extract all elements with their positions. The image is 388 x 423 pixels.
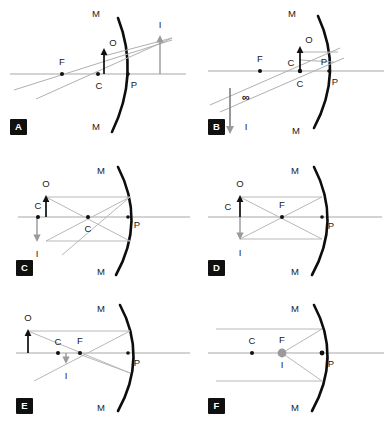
panel-f-diagram: M M C F P I F: [194, 285, 388, 423]
panel-f: M M C F P I F: [194, 285, 388, 423]
image-at-infinity-arrow-head: [226, 126, 234, 134]
label-focal-point: F: [257, 53, 263, 64]
converging-ray-top: [282, 329, 322, 353]
label-mirror-bottom: M: [97, 266, 105, 277]
label-pole: P: [134, 357, 140, 368]
label-pole: P: [134, 219, 140, 230]
label-centre-upper: C: [288, 57, 295, 68]
focal-point-dot: [60, 72, 64, 76]
label-centre: C: [225, 201, 232, 212]
label-image: I: [239, 247, 242, 258]
label-mirror-bottom: M: [291, 266, 299, 277]
mirror-arc: [312, 305, 328, 411]
label-image: I: [245, 121, 248, 132]
label-focal-point: F: [59, 56, 65, 67]
pole-dot: [327, 69, 331, 73]
centre-dot: [250, 351, 254, 355]
label-focal-point: F: [77, 335, 83, 346]
label-image: I: [36, 248, 39, 259]
panel-e: M M C F O P I E: [0, 285, 194, 423]
label-pole: P: [328, 358, 334, 369]
point-image-dot: [278, 349, 287, 358]
incident-ray-1: [14, 40, 172, 90]
label-mirror-bottom: M: [292, 125, 300, 136]
label-mirror-top: M: [291, 303, 299, 314]
ray-diagram-figure: M M F C O P I A M M F: [0, 0, 388, 423]
centre-dot: [298, 69, 302, 73]
pole-dot: [126, 351, 130, 355]
focal-ray: [62, 197, 130, 255]
mirror-arc: [118, 305, 134, 411]
label-mirror-top: M: [97, 303, 105, 314]
label-pole: P: [328, 220, 334, 231]
centre-dot: [56, 351, 60, 355]
panel-a: M M F C O P I A: [0, 0, 194, 145]
panel-a-diagram: M M F C O P I A: [0, 0, 194, 145]
label-object: O: [42, 178, 49, 189]
label-image: I: [159, 19, 162, 30]
centre-dot: [96, 72, 100, 76]
panel-c: M M C C O P I C: [0, 145, 194, 285]
pole-dot: [320, 351, 325, 356]
label-infinity: ∞: [242, 91, 250, 103]
label-object: O: [305, 34, 312, 45]
label-image: I: [281, 359, 284, 370]
focal-point-dot: [280, 215, 284, 219]
label-centre: C: [55, 336, 62, 347]
label-mirror-bottom: M: [92, 121, 100, 132]
label-pole-lower: P: [332, 76, 338, 87]
label-focal-point: F: [279, 334, 285, 345]
label-centre-mid: C: [85, 223, 92, 234]
converging-ray-bottom: [282, 353, 322, 381]
label-mirror-bottom: M: [97, 402, 105, 413]
focal-point-dot: [78, 351, 82, 355]
panel-badge-label: D: [213, 262, 220, 273]
mirror-arc: [112, 18, 128, 132]
panel-b: M M F C C O P P ∞ I B: [194, 0, 388, 145]
image-arrow-head: [156, 35, 163, 42]
label-mirror-top: M: [92, 8, 100, 19]
panel-badge-label: C: [21, 262, 28, 273]
centre-mid-dot: [86, 215, 90, 219]
object-arrow-head: [101, 48, 108, 55]
panel-badge-label: A: [15, 121, 22, 132]
label-mirror-top: M: [288, 8, 296, 19]
label-mirror-top: M: [291, 165, 299, 176]
pole-dot: [126, 215, 130, 219]
focal-point-dot: [258, 69, 262, 73]
panel-d: M M C F O P I D: [194, 145, 388, 285]
panel-badge-label: B: [213, 121, 220, 132]
label-mirror-bottom: M: [291, 402, 299, 413]
label-mirror-top: M: [97, 165, 105, 176]
pole-dot: [320, 215, 324, 219]
label-centre-left: C: [35, 200, 42, 211]
object-arrow-head: [297, 46, 304, 53]
label-object: O: [236, 178, 243, 189]
panel-badge-label: E: [21, 400, 27, 411]
label-object: O: [109, 37, 116, 48]
label-focal-point: F: [279, 199, 285, 210]
label-pole-upper: P: [321, 56, 327, 67]
label-object: O: [24, 312, 31, 323]
panel-badge-label: F: [214, 400, 220, 411]
mirror-arc: [312, 167, 328, 275]
label-centre: C: [96, 80, 103, 91]
panel-e-diagram: M M C F O P I E: [0, 285, 194, 423]
mirror-arc: [116, 167, 132, 275]
panel-c-diagram: M M C C O P I C: [0, 145, 194, 285]
panel-b-diagram: M M F C C O P P ∞ I B: [194, 0, 388, 145]
focal-ray: [76, 353, 130, 373]
centre-left-dot: [36, 215, 40, 219]
panel-d-diagram: M M C F O P I D: [194, 145, 388, 285]
image-arrow-head: [33, 235, 40, 242]
label-pole: P: [131, 79, 137, 90]
label-image: I: [65, 370, 68, 381]
label-centre: C: [249, 335, 256, 346]
label-centre-lower: C: [297, 78, 304, 89]
pole-dot: [126, 72, 130, 76]
